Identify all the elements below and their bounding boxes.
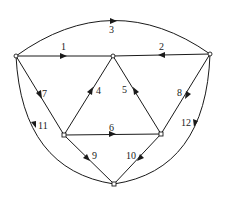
- node-e: [159, 132, 163, 136]
- directed-graph-diagram: 3 1 2 7 4 5 8 6 11 12 9 10: [0, 0, 225, 199]
- node-d: [62, 133, 66, 137]
- edge-label-2: 2: [159, 41, 164, 52]
- edge-11: [16, 56, 114, 184]
- edge-label-7: 7: [42, 88, 47, 99]
- edge-label-3: 3: [109, 24, 114, 35]
- edge-10: [114, 134, 161, 184]
- edge-label-11: 11: [38, 120, 48, 131]
- node-f: [112, 182, 116, 186]
- edge-label-10: 10: [126, 150, 136, 161]
- edge-4: [64, 56, 113, 135]
- node-b: [111, 54, 115, 58]
- edge-5: [113, 56, 161, 134]
- arrow-icon-10: [137, 154, 144, 161]
- arrow-icon-11: [31, 121, 36, 128]
- node-c: [208, 52, 212, 56]
- edge-label-12: 12: [181, 117, 191, 128]
- node-a: [14, 54, 18, 58]
- arrow-icon-8: [185, 91, 191, 99]
- edge-12: [114, 54, 210, 184]
- edge-label-5: 5: [122, 84, 127, 95]
- arrow-icon-2: [158, 52, 165, 58]
- arrowheads: [31, 18, 198, 161]
- edge-label-6: 6: [109, 122, 114, 133]
- edge-label-9: 9: [92, 150, 97, 161]
- edge-label-4: 4: [96, 85, 101, 96]
- edge-label-8: 8: [177, 87, 182, 98]
- edge-label-1: 1: [61, 41, 66, 52]
- edges: [16, 20, 210, 184]
- arrow-icon-1: [60, 53, 67, 59]
- edge-labels: 3 1 2 7 4 5 8 6 11 12 9 10: [38, 24, 191, 161]
